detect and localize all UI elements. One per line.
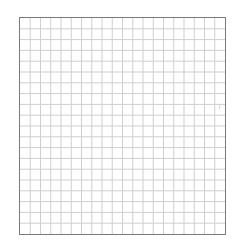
- graph-paper-grid: [19, 17, 226, 235]
- grid-lines: [20, 18, 225, 234]
- stray-mark: [219, 105, 220, 109]
